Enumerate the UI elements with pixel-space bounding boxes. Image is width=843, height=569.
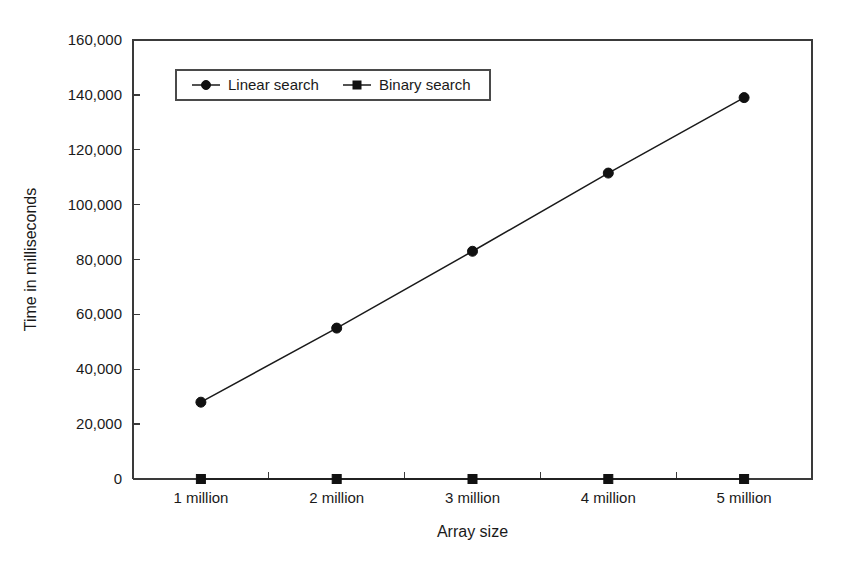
y-tick-label: 60,000 [76,305,122,322]
y-tick-label: 120,000 [68,141,122,158]
data-point-marker [740,474,749,483]
line-chart: 020,00040,00060,00080,000100,000120,0001… [0,0,843,569]
data-point-marker [196,474,205,483]
y-tick-label: 40,000 [76,360,122,377]
legend-marker-2 [353,81,361,89]
data-point-marker [739,93,749,103]
x-tick-label: 1 million [173,489,228,506]
data-point-marker [332,323,342,333]
legend: Linear searchBinary search [176,70,490,100]
y-tick-label: 160,000 [68,31,122,48]
x-tick-label: 3 million [445,489,500,506]
x-tick-label: 4 million [581,489,636,506]
data-point-marker [332,474,341,483]
data-point-marker [603,168,613,178]
x-axis-title: Array size [437,523,508,540]
y-tick-label: 100,000 [68,196,122,213]
legend-label-2: Binary search [379,76,471,93]
y-tick-label: 80,000 [76,251,122,268]
series-1 [196,93,749,408]
y-tick-label: 20,000 [76,415,122,432]
x-tick-label: 5 million [717,489,772,506]
data-point-marker [196,397,206,407]
y-axis: 020,00040,00060,00080,000100,000120,0001… [22,31,140,487]
plot-frame [133,40,812,479]
legend-label-1: Linear search [228,76,319,93]
chart-container: 020,00040,00060,00080,000100,000120,0001… [0,0,843,569]
plot-frame-border [133,40,812,479]
series-2 [196,474,748,483]
legend-marker-1 [202,81,211,90]
data-point-marker [468,246,478,256]
data-point-marker [468,474,477,483]
y-tick-label: 140,000 [68,86,122,103]
y-tick-label: 0 [114,470,122,487]
x-tick-label: 2 million [309,489,364,506]
y-axis-title: Time in milliseconds [22,188,39,331]
data-point-marker [604,474,613,483]
